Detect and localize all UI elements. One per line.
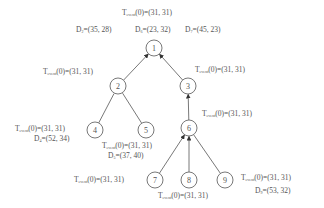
node-8-t-label: Tevent(0)=(31, 31)	[158, 191, 208, 202]
node-7-d-label: D7=(45, 23)	[185, 25, 220, 36]
edge-4-2	[99, 94, 114, 123]
node-6-t-label: Tevent(0)=(31, 31)	[202, 109, 252, 120]
tree-node-3: 3	[180, 78, 196, 94]
node-2-d-label: D2=(35, 28)	[76, 25, 111, 36]
tree-node-2: 2	[110, 78, 126, 94]
tree-node-1: 1	[146, 40, 162, 56]
edge-5-2	[123, 93, 142, 123]
node-7-t-label: Tevent(0)=(31, 31)	[74, 175, 124, 186]
svg-text:8: 8	[187, 176, 191, 185]
svg-text:7: 7	[153, 176, 157, 185]
svg-text:2: 2	[116, 82, 120, 91]
tree-node-8: 8	[181, 172, 197, 188]
svg-text:9: 9	[223, 176, 227, 185]
edge-9-6	[194, 135, 221, 173]
tree-node-7: 7	[147, 172, 163, 188]
tree-node-4: 4	[87, 122, 103, 138]
edge-6-3	[188, 94, 189, 120]
node-9-t-label: Tevent(0)=(31, 31)	[241, 173, 291, 184]
node-4-d-label: D4=(52, 34)	[34, 134, 69, 145]
tree-node-9: 9	[217, 172, 233, 188]
edge-7-6	[159, 135, 184, 173]
edge-2-1	[124, 54, 149, 80]
edge-3-1	[160, 54, 183, 80]
node-5-d-label: D5=(37, 40)	[108, 151, 143, 162]
node-6-d-label: D6=(23, 32)	[135, 25, 170, 36]
node-3-t-label: Tevent(0)=(31, 31)	[195, 65, 245, 76]
node-1-t-label: Tevent(0)=(31, 31)	[122, 8, 172, 19]
node-9-d-label: D9=(53, 32)	[255, 186, 290, 197]
tree-node-5: 5	[138, 122, 154, 138]
tree-node-6: 6	[181, 120, 197, 136]
svg-text:6: 6	[187, 124, 191, 133]
svg-text:4: 4	[93, 126, 97, 135]
svg-text:1: 1	[152, 44, 156, 53]
svg-text:5: 5	[144, 126, 148, 135]
node-2-t-label: Tevent(0)=(31, 31)	[43, 67, 93, 78]
svg-text:3: 3	[186, 82, 190, 91]
